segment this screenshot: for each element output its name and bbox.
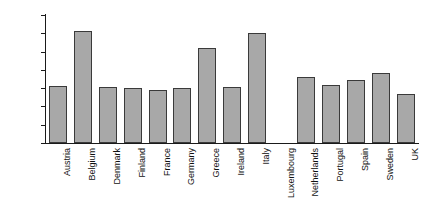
bar-uk[interactable] [397, 94, 415, 143]
x-label-slot: Austria [46, 146, 71, 218]
bar-belgium[interactable] [74, 31, 92, 143]
bar-slot [244, 15, 269, 143]
bar-sweden[interactable] [372, 73, 390, 143]
x-label-slot: Italy [244, 146, 269, 218]
x-axis-line [45, 143, 419, 144]
bar-slot [269, 15, 294, 143]
bar-slot [368, 15, 393, 143]
x-label-slot: Denmark [96, 146, 121, 218]
bar-slot [145, 15, 170, 143]
x-label-slot: France [145, 146, 170, 218]
bar-slot [319, 15, 344, 143]
bar-netherlands[interactable] [297, 77, 315, 143]
x-label-slot: Sweden [368, 146, 393, 218]
x-label-slot: Luxembourg [269, 146, 294, 218]
bar-slot [393, 15, 418, 143]
bar-france[interactable] [149, 90, 167, 143]
bar-italy[interactable] [248, 33, 266, 143]
x-label-slot: Ireland [220, 146, 245, 218]
bar-chart: 020406080100120140 AustriaBelgiumDenmark… [0, 0, 429, 222]
x-label-slot: Finland [120, 146, 145, 218]
x-label-slot: Greece [195, 146, 220, 218]
x-label-slot: Germany [170, 146, 195, 218]
x-axis-labels: AustriaBelgiumDenmarkFinlandFranceGerman… [46, 146, 418, 218]
bar-austria[interactable] [49, 86, 67, 143]
bar-slot [46, 15, 71, 143]
bar-slot [71, 15, 96, 143]
bar-finland[interactable] [124, 88, 142, 143]
bar-ireland[interactable] [223, 87, 241, 143]
x-label-slot: Portugal [319, 146, 344, 218]
bar-portugal[interactable] [322, 85, 340, 143]
x-tick-label: UK [410, 148, 419, 161]
bar-germany[interactable] [173, 88, 191, 143]
bar-denmark[interactable] [99, 87, 117, 143]
bar-series [46, 15, 418, 143]
chart-title [0, 0, 429, 7]
x-label-slot: UK [393, 146, 418, 218]
x-label-slot: Netherlands [294, 146, 319, 218]
y-tick-mark [41, 143, 46, 144]
bar-slot [120, 15, 145, 143]
bar-slot [344, 15, 369, 143]
bar-slot [170, 15, 195, 143]
bar-slot [220, 15, 245, 143]
bar-greece[interactable] [198, 48, 216, 143]
bar-slot [294, 15, 319, 143]
bar-slot [195, 15, 220, 143]
bar-spain[interactable] [347, 80, 365, 143]
x-label-slot: Belgium [71, 146, 96, 218]
bar-slot [96, 15, 121, 143]
x-label-slot: Spain [344, 146, 369, 218]
